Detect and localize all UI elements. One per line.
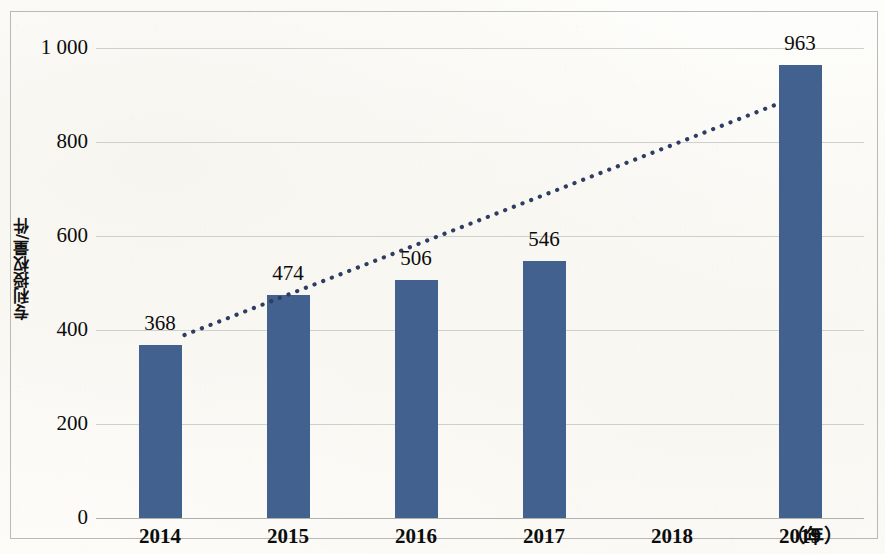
gridline-400 xyxy=(96,330,864,331)
y-axis-tick-labels: 1 0008006004002000 xyxy=(8,48,88,518)
gridline-0 xyxy=(96,518,864,519)
bar-value-label-2016: 506 xyxy=(371,248,461,269)
x-tick-label-2014: 2014 xyxy=(110,524,210,548)
bar-2015[interactable] xyxy=(267,295,310,518)
gridline-200 xyxy=(96,424,864,425)
gridline-1000 xyxy=(96,48,864,49)
y-tick-label-0: 0 xyxy=(16,507,88,528)
x-tick-label-2017: 2017 xyxy=(494,524,594,548)
x-tick-label-2018: 2018 xyxy=(622,524,722,548)
bar-value-label-2019: 963 xyxy=(755,33,845,54)
x-tick-label-2019: 2019 xyxy=(750,524,850,548)
bar-value-label-2017: 546 xyxy=(499,229,589,250)
y-tick-label-600: 600 xyxy=(16,225,88,246)
scanned-page: 专利授权量/件 1 0008006004002000 3684745065469… xyxy=(0,0,885,554)
gridline-600 xyxy=(96,236,864,237)
x-tick-label-2016: 2016 xyxy=(366,524,466,548)
y-tick-label-1000: 1 000 xyxy=(16,37,88,58)
bar-2016[interactable] xyxy=(395,280,438,518)
y-tick-label-200: 200 xyxy=(16,413,88,434)
x-axis-tick-labels: （年） 201420152016201720182019 xyxy=(96,524,864,554)
bar-value-label-2015: 474 xyxy=(243,263,333,284)
bar-2014[interactable] xyxy=(139,345,182,518)
gridline-800 xyxy=(96,142,864,143)
y-tick-label-800: 800 xyxy=(16,131,88,152)
y-tick-label-400: 400 xyxy=(16,319,88,340)
bar-value-label-2014: 368 xyxy=(115,313,205,334)
bar-2019[interactable] xyxy=(779,65,822,518)
bar-2017[interactable] xyxy=(523,261,566,518)
x-tick-label-2015: 2015 xyxy=(238,524,338,548)
trendline xyxy=(96,48,864,518)
plot-area: 368474506546963 xyxy=(96,48,864,518)
